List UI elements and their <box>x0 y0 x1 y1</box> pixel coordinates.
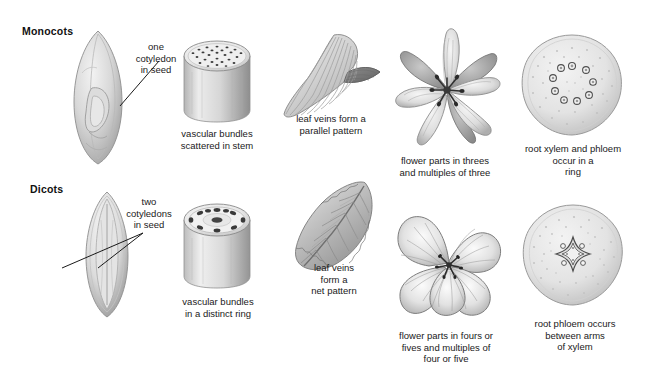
monocot-leaf-illustration <box>282 30 386 122</box>
monocot-dicot-comparison-diagram: Monocots Dicots one cotyledon in seed <box>0 0 653 378</box>
dicot-leaf-caption: leaf veins form a net pattern <box>289 262 379 297</box>
dicot-flower-caption: flower parts in fours or fives and multi… <box>372 330 520 365</box>
dicot-root-caption: root phloem occurs between arms of xylem <box>519 318 631 353</box>
monocot-root-caption: root xylem and phloem occur in a ring <box>516 143 630 178</box>
dicot-stem-caption: vascular bundles in a distinct ring <box>168 296 268 319</box>
monocot-root-cross-section-illustration <box>517 33 627 139</box>
dicot-seed-caption: two cotyledons in seed <box>112 196 186 231</box>
monocot-stem-cross-section-illustration <box>178 38 256 124</box>
row-label-dicots: Dicots <box>30 183 63 195</box>
monocot-flower-caption: flower parts in threes and multiples of … <box>369 155 521 178</box>
monocot-stem-caption: vascular bundles scattered in stem <box>168 128 266 151</box>
monocot-flower-trillium-illustration <box>384 24 510 158</box>
monocot-leaf-caption: leaf veins form a parallel pattern <box>283 113 379 136</box>
dicot-root-cross-section-illustration <box>518 203 628 309</box>
dicot-flower-illustration <box>389 205 509 325</box>
dicot-stem-cross-section-illustration <box>178 200 256 290</box>
